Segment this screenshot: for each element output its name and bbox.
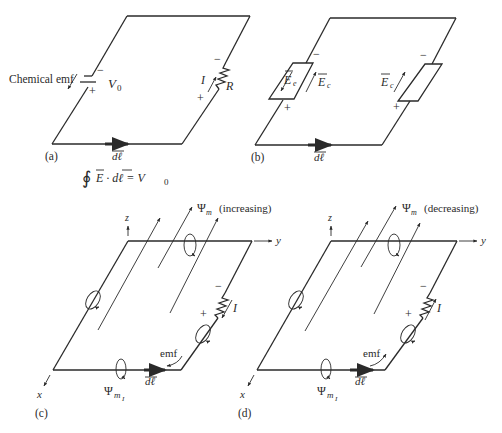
load-box-icon: [398, 64, 442, 101]
y-axis-label: y: [480, 234, 486, 246]
field-c-label: E: [317, 75, 326, 89]
b-field-circulation-icon: [286, 234, 419, 379]
svg-text:−: −: [313, 47, 320, 61]
flux-label: Ψ: [197, 201, 206, 215]
emf-label: emf: [160, 347, 177, 359]
svg-text:E · dℓ = V: E · dℓ = V: [95, 171, 146, 185]
battery-minus: −: [97, 63, 104, 77]
circuit-loop-c: [53, 241, 252, 370]
x-axis-label: x: [239, 388, 245, 400]
field-e-label: E: [283, 73, 292, 87]
x-axis-arrow-icon: [44, 375, 50, 386]
z-axis-label: z: [124, 212, 129, 223]
svg-text:dℓ: dℓ: [314, 151, 325, 163]
x-axis-label: x: [36, 388, 42, 400]
svg-text:c: c: [327, 81, 331, 90]
svg-text:+: +: [405, 307, 412, 321]
current-arrow-icon: [222, 300, 232, 318]
flux-state-label: (increasing): [219, 202, 272, 215]
svg-text:I: I: [334, 395, 338, 403]
svg-text:+: +: [284, 101, 291, 115]
magnetic-flux-lines: [305, 206, 420, 331]
panel-label-b: (b): [251, 151, 265, 164]
battery-plus: +: [89, 84, 96, 98]
emf-label: emf: [363, 347, 380, 359]
svg-text:m: m: [327, 390, 334, 400]
circuit-loop-d: [257, 241, 457, 370]
field-c-arrow-right-icon: [394, 72, 405, 92]
svg-text:c: c: [390, 81, 394, 90]
resistor-icon: [215, 293, 228, 318]
svg-text:m: m: [411, 208, 417, 217]
b-field-circulation-icon: [83, 234, 214, 379]
svg-text:0: 0: [164, 177, 169, 187]
current-arrow-icon: [208, 77, 216, 92]
panel-label-d: (d): [238, 407, 252, 420]
figure-canvas: − + V 0 Chemical emf − + I R dℓ (a) ∮ E …: [0, 0, 502, 433]
panel-label-c: (c): [35, 407, 48, 420]
current-label: I: [232, 301, 238, 315]
svg-text:m: m: [206, 208, 212, 217]
panel-label-a: (a): [45, 150, 58, 163]
panel-a: − + V 0 Chemical emf − + I R dℓ (a) ∮ E …: [9, 16, 250, 188]
svg-text:+: +: [200, 307, 207, 321]
panel-b: − + E e E c − + E c dℓ (b): [251, 18, 456, 164]
dl-label: dℓ: [112, 150, 123, 162]
svg-text:−: −: [214, 52, 221, 66]
flux-state-label: (decreasing): [424, 202, 479, 215]
svg-text:0: 0: [117, 83, 122, 93]
y-axis-label: y: [275, 234, 281, 246]
svg-text:+: +: [197, 91, 204, 105]
current-label: I: [436, 301, 442, 315]
field-c-arrow-icon: [306, 72, 316, 92]
line-integral-equation: ∮ E · dℓ = V 0: [82, 168, 169, 188]
circuit-loop-a: [52, 16, 250, 144]
svg-text:+: +: [393, 100, 400, 114]
induced-flux-label: Ψ: [317, 384, 326, 398]
induced-flux-label: Ψ: [104, 384, 113, 398]
svg-text:∮: ∮: [82, 168, 91, 188]
flux-label: Ψ: [402, 201, 411, 215]
chemical-emf-label: Chemical emf: [9, 73, 74, 85]
svg-text:e: e: [293, 79, 297, 88]
resistor-icon: [420, 293, 433, 318]
svg-text:I: I: [121, 395, 125, 403]
svg-text:−: −: [215, 279, 222, 293]
svg-text:m: m: [114, 390, 121, 400]
svg-text:−: −: [420, 48, 427, 62]
current-label: I: [200, 73, 206, 87]
resistor-label: R: [225, 79, 234, 93]
x-axis-arrow-icon: [248, 375, 254, 386]
z-axis-label: z: [327, 212, 332, 223]
svg-text:−: −: [420, 279, 427, 293]
field-c-label-right: E: [380, 75, 389, 89]
battery-icon: [80, 76, 96, 82]
